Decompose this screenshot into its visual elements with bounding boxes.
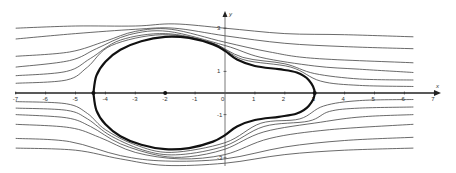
x-tick-label: -3 <box>132 96 138 102</box>
x-tick-label: 1 <box>252 96 256 102</box>
streamline <box>16 100 414 153</box>
stagnation-left-point <box>91 91 95 95</box>
streamline <box>16 115 414 158</box>
x-tick-label: 2 <box>282 96 286 102</box>
axes: x y 0 -7-6-5-4-3-2-11234567 31-1-3 <box>13 11 441 166</box>
x-tick-label: -2 <box>162 96 168 102</box>
y-tick-label: -3 <box>217 155 223 161</box>
x-tick-label: -7 <box>13 96 19 102</box>
origin-label: 0 <box>221 96 225 102</box>
y-tick-label: 1 <box>217 68 221 74</box>
x-axis-arrow-icon <box>434 90 441 96</box>
streamline <box>16 107 414 155</box>
x-axis-label: x <box>435 83 440 89</box>
streamline <box>16 31 414 73</box>
y-axis-arrow-icon <box>223 11 228 17</box>
source-point <box>163 91 167 95</box>
stagnation-right-point <box>313 91 317 95</box>
x-tick-label: -4 <box>102 96 108 102</box>
x-tick-label: 5 <box>372 96 376 102</box>
streamline <box>16 24 414 37</box>
x-tick-label: -1 <box>192 96 198 102</box>
x-tick-label: 4 <box>342 96 346 102</box>
streamline <box>16 34 414 80</box>
x-tick-label: -5 <box>73 96 79 102</box>
y-axis-label: y <box>228 11 233 17</box>
x-tick-label: -6 <box>43 96 49 102</box>
x-tick-label: 7 <box>431 96 435 102</box>
streamline-diagram: x y 0 -7-6-5-4-3-2-11234567 31-1-3 <box>0 0 456 173</box>
x-tick-label: 6 <box>401 96 405 102</box>
y-tick-label: 3 <box>217 25 221 31</box>
y-tick-label: -1 <box>217 112 223 118</box>
